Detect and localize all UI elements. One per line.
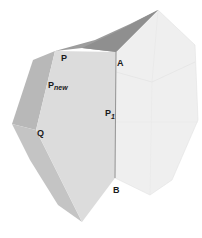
label-P: P [61,53,67,63]
label-Q: Q [37,128,44,138]
diagram-canvas: P Pnew A P1 Q B [0,0,202,238]
label-A: A [117,58,124,68]
polyhedron-diagram: P Pnew A P1 Q B [0,0,202,238]
label-B: B [113,185,120,195]
